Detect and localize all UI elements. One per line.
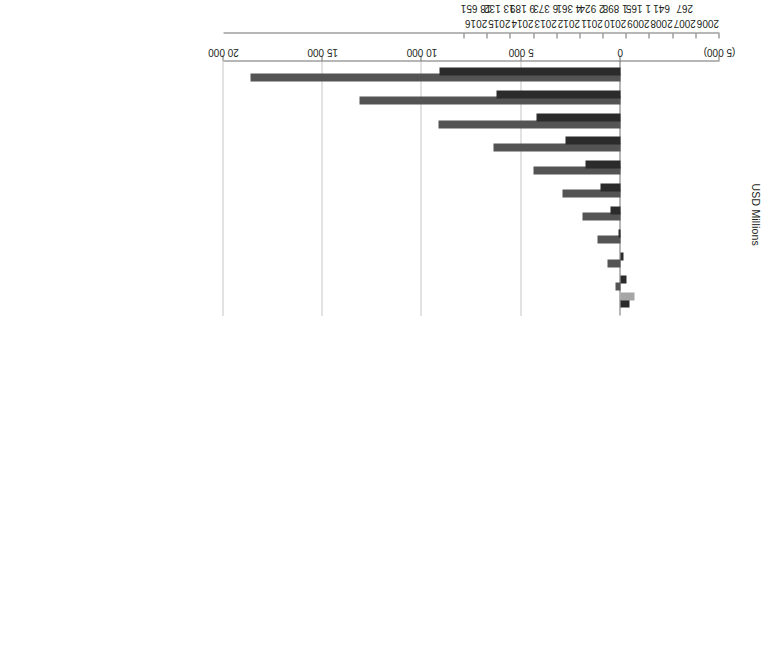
table-top-rule bbox=[224, 33, 720, 34]
table-column-tick bbox=[510, 34, 511, 39]
table-column-tick bbox=[603, 34, 604, 39]
table-year-label: 2016 bbox=[446, 15, 506, 30]
bar-nopat-2016 bbox=[440, 67, 621, 75]
x-tick-label: 5 000 bbox=[509, 47, 534, 58]
table-column-tick bbox=[487, 34, 488, 39]
table-column-tick bbox=[626, 34, 627, 39]
bar-nopat-2010 bbox=[611, 206, 621, 214]
axis-title: USD Millions bbox=[750, 184, 762, 324]
rotated-figure-container: USD Millions (5 000)05 00010 00015 00020… bbox=[109, 0, 765, 334]
table-column-tick bbox=[533, 34, 534, 39]
table-column-2016: 201618 6519 100 bbox=[446, 0, 506, 30]
plot-area bbox=[224, 61, 720, 316]
x-tick-label: (5 000) bbox=[704, 47, 736, 58]
table-column-tick bbox=[579, 34, 580, 39]
bar-nopat-2012 bbox=[586, 160, 620, 168]
table-column-tick bbox=[464, 34, 465, 39]
bar-nopat-2014 bbox=[537, 114, 620, 122]
bar-nopat-2007 bbox=[620, 276, 626, 284]
bar-revenue-2008 bbox=[608, 259, 621, 267]
x-tick-label: 10 000 bbox=[407, 47, 438, 58]
chart-figure: USD Millions (5 000)05 00010 00015 00020… bbox=[109, 0, 765, 334]
data-table: 2006 (447)(700)2007267(322) 2008641(141)… bbox=[224, 0, 720, 34]
bar-nopat-2011 bbox=[600, 183, 620, 191]
bar-nopat-2009 bbox=[618, 230, 620, 238]
table-column-tick bbox=[556, 34, 557, 39]
x-tick-label: 20 000 bbox=[208, 47, 239, 58]
bar-revenue-2009 bbox=[597, 236, 620, 244]
table-column-tick bbox=[649, 34, 650, 39]
table-cell-nopat: 9 100 bbox=[446, 0, 506, 1]
table-column-tick bbox=[695, 34, 696, 39]
bar-nopat-2015 bbox=[497, 90, 621, 98]
bar-nopat-2013 bbox=[566, 137, 621, 145]
bar-capital-investment-2006 bbox=[620, 293, 634, 301]
x-tick-label: 0 bbox=[618, 47, 624, 58]
gridline bbox=[322, 61, 323, 316]
x-tick-label: 15 000 bbox=[307, 47, 338, 58]
gridline bbox=[223, 61, 224, 316]
table-column-tick bbox=[719, 34, 720, 39]
table-cell-revenue: 18 651 bbox=[446, 1, 506, 16]
bar-nopat-2008 bbox=[620, 253, 623, 261]
table-column-tick bbox=[672, 34, 673, 39]
